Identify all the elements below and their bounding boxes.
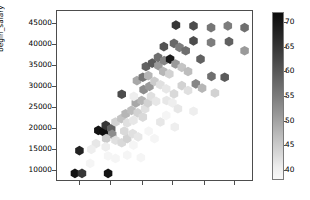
y-tick-mark <box>52 86 56 87</box>
colorbar-tick-label: 65 <box>285 43 310 50</box>
hexbin-cell <box>189 36 198 46</box>
y-tick-label: 20000 <box>0 124 52 131</box>
hexbin-cell <box>207 23 216 33</box>
x-tick-mark <box>172 181 173 185</box>
colorbar-tick-mark <box>284 170 287 171</box>
hexbin-cell <box>196 54 205 64</box>
hexbin-cell <box>220 72 229 82</box>
colorbar-tick-label: 70 <box>285 18 310 25</box>
colorbar-tick-mark <box>284 22 287 23</box>
hexbin-cell <box>207 72 216 82</box>
colorbar-tick-label: 45 <box>285 141 310 148</box>
hexbin-cell <box>170 89 179 99</box>
y-tick-mark <box>52 149 56 150</box>
y-tick-mark <box>52 65 56 66</box>
colorbar-tick-mark <box>284 47 287 48</box>
y-tick-label: 35000 <box>0 61 52 68</box>
hexbin-cell <box>137 153 146 163</box>
colorbar-tick-label: 55 <box>285 92 310 99</box>
hexbin-cell <box>144 126 153 136</box>
colorbar-tick-label: 60 <box>285 67 310 74</box>
hexbin-cell <box>172 20 181 30</box>
colorbar-tick-mark <box>284 96 287 97</box>
y-tick-mark <box>52 170 56 171</box>
hexbin-cell <box>225 37 234 47</box>
hexbin-cell <box>123 150 132 160</box>
hexbin-cell <box>160 42 169 52</box>
colorbar <box>272 12 284 180</box>
x-tick-mark <box>204 181 205 185</box>
hexbin-cell <box>150 134 159 144</box>
hexbin-cell <box>224 21 233 31</box>
hexbin-cell <box>101 142 110 152</box>
hexbin-cell <box>189 106 198 116</box>
hexbin-cell <box>117 89 126 99</box>
colorbar-tick-label: 50 <box>285 117 310 124</box>
y-tick-mark <box>52 107 56 108</box>
hexbin-cell <box>129 140 138 150</box>
hexbin-cell <box>240 23 249 33</box>
y-tick-label: 25000 <box>0 103 52 110</box>
hexbin-cell <box>171 122 180 132</box>
colorbar-tick-mark <box>284 145 287 146</box>
hexbin-cell <box>207 38 216 48</box>
hexbin-cell <box>111 154 120 164</box>
hexbin-cell <box>86 159 95 169</box>
hexbin-cell <box>78 169 87 179</box>
hexbin-cell <box>240 46 249 56</box>
colorbar-tick-mark <box>284 121 287 122</box>
y-tick-label: 45000 <box>0 19 52 26</box>
hexbin-cell <box>156 117 165 127</box>
colorbar-tick-label: 40 <box>285 166 310 173</box>
plot-area <box>56 10 253 181</box>
hexbin-figure: begin_salary 100001500020000250003000035… <box>0 0 310 200</box>
x-tick-mark <box>79 181 80 185</box>
x-tick-mark <box>142 181 143 185</box>
y-tick-label: 15000 <box>0 145 52 152</box>
y-tick-mark <box>52 23 56 24</box>
hexbin-cell <box>104 151 113 161</box>
colorbar-tick-mark <box>284 71 287 72</box>
hexbin-cell <box>162 111 171 121</box>
y-tick-label: 30000 <box>0 82 52 89</box>
hexbin-cell <box>104 169 113 179</box>
y-tick-mark <box>52 44 56 45</box>
hexbin-cell <box>189 21 198 31</box>
hexbin-cell <box>75 146 84 156</box>
y-tick-label: 10000 <box>0 166 52 173</box>
y-tick-label: 40000 <box>0 40 52 47</box>
x-tick-mark <box>234 181 235 185</box>
hexbin-layer <box>57 11 252 180</box>
x-tick-mark <box>110 181 111 185</box>
hexbin-cell <box>211 88 220 98</box>
y-tick-mark <box>52 128 56 129</box>
